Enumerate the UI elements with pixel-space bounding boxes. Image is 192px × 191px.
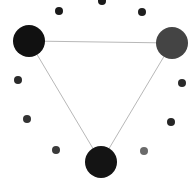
satellite-node-7 [167, 118, 175, 126]
network-diagram [0, 0, 192, 191]
edge-hub-top-right-hub-bottom [101, 43, 172, 162]
edge-hub-top-left-hub-top-right [29, 41, 172, 43]
satellite-node-4 [14, 76, 22, 84]
hub-node-layer [13, 25, 188, 178]
satellite-node-5 [178, 79, 186, 87]
satellite-node-layer [14, 0, 186, 155]
satellite-node-1 [55, 7, 63, 15]
satellite-node-9 [140, 147, 148, 155]
hub-top-left-node [13, 25, 45, 57]
edge-hub-top-left-hub-bottom [29, 41, 101, 162]
satellite-node-6 [23, 115, 31, 123]
satellite-node-2 [98, 0, 106, 5]
satellite-node-8 [52, 146, 60, 154]
edge-layer [29, 41, 172, 162]
satellite-node-3 [138, 8, 146, 16]
hub-top-right-node [156, 27, 188, 59]
hub-bottom-node [85, 146, 117, 178]
